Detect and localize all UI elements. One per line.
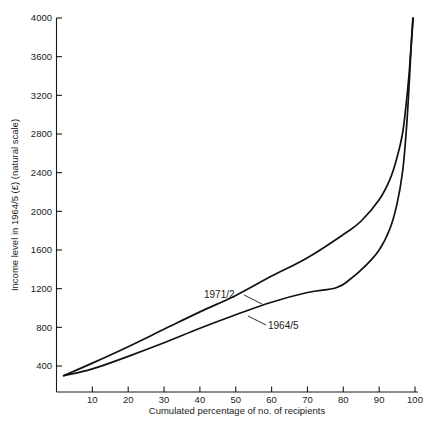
leader-line-1971-2 xyxy=(244,295,262,304)
x-axis-ticks xyxy=(92,387,415,393)
x-axis-tick-labels: 102030405060708090100 xyxy=(87,394,423,405)
series-label-1964-5: 1964/5 xyxy=(268,320,299,331)
data-curve-1964-5 xyxy=(64,18,413,376)
series-label-1971-2: 1971/2 xyxy=(204,289,235,300)
x-tick-label: 40 xyxy=(195,394,206,405)
y-tick-label: 800 xyxy=(36,322,52,333)
y-tick-label: 3600 xyxy=(31,51,52,62)
x-tick-label: 10 xyxy=(87,394,98,405)
x-tick-label: 50 xyxy=(230,394,241,405)
y-tick-label: 2800 xyxy=(31,128,52,139)
y-tick-label: 400 xyxy=(36,360,52,371)
y-tick-label: 3200 xyxy=(31,90,52,101)
x-tick-label: 70 xyxy=(302,394,313,405)
x-tick-label: 100 xyxy=(407,394,423,405)
y-axis-tick-labels: 40080012001600200024002800320036004000 xyxy=(31,12,52,371)
data-curve-1971-2 xyxy=(64,18,414,376)
chart-container: 40080012001600200024002800320036004000 1… xyxy=(0,0,433,430)
y-tick-label: 4000 xyxy=(31,12,52,23)
x-tick-label: 90 xyxy=(374,394,385,405)
x-tick-label: 20 xyxy=(123,394,134,405)
income-distribution-chart: 40080012001600200024002800320036004000 1… xyxy=(0,0,433,430)
y-tick-label: 2400 xyxy=(31,167,52,178)
y-axis-title: Income level in 1964/5 (£) (natural scal… xyxy=(9,119,20,291)
annotation-1971-2: 1971/2 xyxy=(204,289,262,304)
data-curves xyxy=(64,18,414,376)
y-tick-label: 1200 xyxy=(31,283,52,294)
y-tick-label: 1600 xyxy=(31,244,52,255)
y-axis-ticks xyxy=(57,18,63,366)
y-tick-label: 2000 xyxy=(31,206,52,217)
annotation-1964-5: 1964/5 xyxy=(248,316,299,331)
x-tick-label: 30 xyxy=(159,394,170,405)
leader-line-1964-5 xyxy=(248,316,266,325)
x-axis-title: Cumulated percentage of no. of recipient… xyxy=(149,405,326,416)
x-tick-label: 60 xyxy=(266,394,277,405)
chart-axes xyxy=(57,18,419,392)
x-tick-label: 80 xyxy=(338,394,349,405)
